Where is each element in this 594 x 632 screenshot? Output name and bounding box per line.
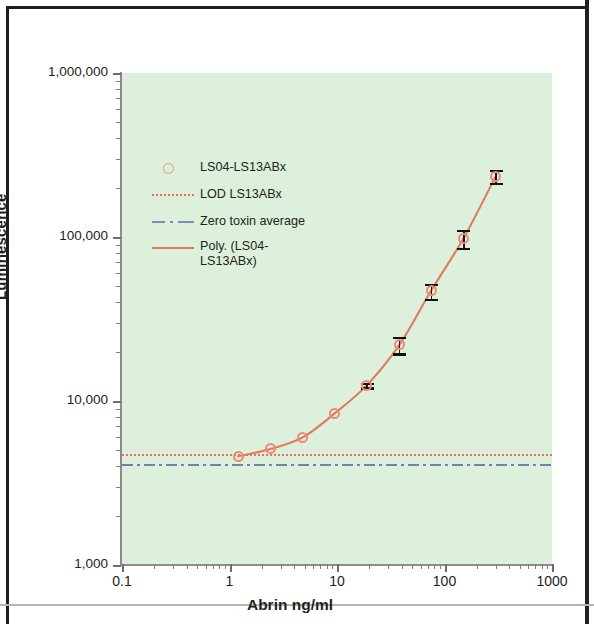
x-tick-minor <box>520 564 521 569</box>
x-tick-minor <box>388 564 389 569</box>
solid-line-icon <box>152 240 196 255</box>
x-tick-minor <box>262 564 263 569</box>
x-tick-minor <box>305 564 306 569</box>
x-tick-major <box>445 564 447 572</box>
x-tick-label: 1000 <box>536 573 567 589</box>
y-tick-minor <box>116 122 121 123</box>
page-bottom-margin <box>0 624 594 632</box>
y-tick-minor <box>116 352 121 353</box>
x-tick-minor <box>173 564 174 569</box>
chart-page: 1,000,000100,00010,0001,000 0.1110100100… <box>0 0 594 632</box>
x-tick-minor <box>197 564 198 569</box>
y-tick-minor <box>116 286 121 287</box>
legend-item-ls04: LS04-LS13ABx <box>152 160 312 175</box>
scan-border-right <box>585 0 589 632</box>
x-tick-label: 0.1 <box>112 573 131 589</box>
legend-label-poly: Poly. (LS04-LS13ABx) <box>196 239 312 269</box>
legend-label-zero-toxin: Zero toxin average <box>196 214 305 229</box>
y-tick-minor <box>116 188 121 189</box>
x-tick-major <box>122 564 124 572</box>
y-tick-minor <box>116 437 121 438</box>
y-tick-minor <box>116 89 121 90</box>
x-tick-minor <box>206 564 207 569</box>
y-axis-line <box>120 72 122 566</box>
x-tick-minor <box>332 564 333 569</box>
x-tick-label: 1 <box>226 573 234 589</box>
dotted-line-icon <box>152 187 196 202</box>
x-tick-major <box>552 564 554 572</box>
legend-item-lod: LOD LS13ABx <box>152 187 312 202</box>
y-tick-minor <box>116 466 121 467</box>
x-tick-minor <box>225 564 226 569</box>
y-tick-minor <box>116 262 121 263</box>
y-tick-minor <box>116 138 121 139</box>
x-tick-minor <box>496 564 497 569</box>
y-tick-major <box>113 565 121 567</box>
y-tick-label: 100,000 <box>0 228 108 243</box>
x-tick-minor <box>421 564 422 569</box>
scan-border-left <box>6 6 9 626</box>
y-tick-minor <box>116 487 121 488</box>
y-tick-minor <box>116 323 121 324</box>
legend-item-poly: Poly. (LS04-LS13ABx) <box>152 239 312 269</box>
x-tick-minor <box>402 564 403 569</box>
x-tick-minor <box>281 564 282 569</box>
y-tick-minor <box>116 98 121 99</box>
x-tick-minor <box>313 564 314 569</box>
x-tick-minor <box>440 564 441 569</box>
x-tick-minor <box>219 564 220 569</box>
plot-area <box>122 73 552 565</box>
x-axis-title-text: Abrin ng/ml <box>247 596 333 614</box>
y-tick-minor <box>116 450 121 451</box>
x-tick-minor <box>535 564 536 569</box>
y-tick-label: 10,000 <box>0 392 108 407</box>
y-tick-minor <box>116 426 121 427</box>
x-tick-minor <box>154 564 155 569</box>
y-tick-major <box>113 237 121 239</box>
y-tick-minor <box>116 109 121 110</box>
x-tick-minor <box>477 564 478 569</box>
y-tick-label: 1,000 <box>0 556 108 571</box>
y-tick-minor <box>116 159 121 160</box>
x-tick-minor <box>509 564 510 569</box>
scan-border-top <box>6 6 586 9</box>
x-tick-label: 10 <box>329 573 345 589</box>
x-tick-minor <box>320 564 321 569</box>
chart-legend: LS04-LS13ABx LOD LS13ABx Zero toxin aver… <box>152 160 312 281</box>
x-tick-minor <box>434 564 435 569</box>
y-tick-minor <box>116 417 121 418</box>
x-tick-minor <box>327 564 328 569</box>
x-tick-label: 100 <box>433 573 456 589</box>
x-tick-major <box>337 564 339 572</box>
y-tick-minor <box>116 245 121 246</box>
x-tick-major <box>230 564 232 572</box>
x-tick-minor <box>369 564 370 569</box>
legend-label-lod: LOD LS13ABx <box>196 187 282 202</box>
y-tick-minor <box>116 81 121 82</box>
dash-dot-line-icon <box>152 214 196 229</box>
legend-label-ls04: LS04-LS13ABx <box>196 160 286 175</box>
open-circle-marker-icon <box>152 160 196 175</box>
x-tick-minor <box>542 564 543 569</box>
x-tick-minor <box>528 564 529 569</box>
y-tick-minor <box>116 253 121 254</box>
x-tick-minor <box>412 564 413 569</box>
x-axis-title: Abrin ng/ml <box>0 596 594 614</box>
y-tick-minor <box>116 516 121 517</box>
x-tick-minor <box>294 564 295 569</box>
y-tick-major <box>113 73 121 75</box>
y-tick-major <box>113 401 121 403</box>
y-tick-minor <box>116 409 121 410</box>
x-tick-minor <box>547 564 548 569</box>
x-tick-minor <box>428 564 429 569</box>
y-tick-minor <box>116 273 121 274</box>
x-tick-minor <box>213 564 214 569</box>
y-axis-title: Luminescence <box>0 193 9 300</box>
x-tick-minor <box>187 564 188 569</box>
legend-item-zero-toxin: Zero toxin average <box>152 214 312 229</box>
y-tick-minor <box>116 302 121 303</box>
y-tick-label: 1,000,000 <box>0 64 108 79</box>
